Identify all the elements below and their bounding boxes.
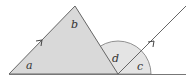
parallel-line [118, 6, 186, 74]
label-a: a [26, 59, 33, 72]
label-b: b [71, 18, 78, 31]
geometry-diagram: a b c d [0, 0, 186, 82]
label-d: d [112, 52, 119, 65]
parallel-arrow-icon [148, 41, 154, 47]
label-c: c [137, 60, 143, 73]
